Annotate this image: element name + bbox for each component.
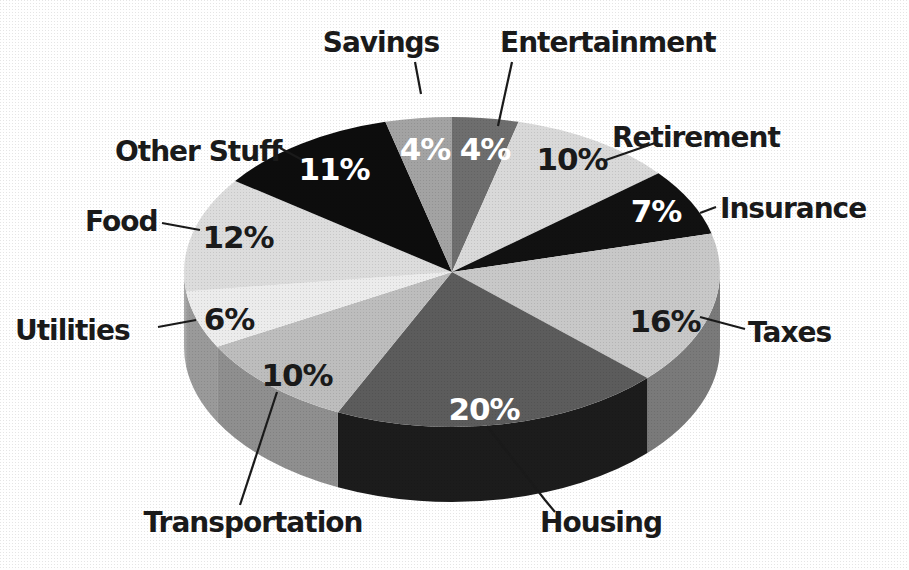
category-label: Food xyxy=(85,205,158,238)
category-label: Other Stuff xyxy=(115,135,283,168)
leader-line xyxy=(162,223,200,230)
category-label: Housing xyxy=(540,506,662,539)
leader-line xyxy=(700,207,716,213)
leader-line xyxy=(415,62,421,94)
percent-label: 10% xyxy=(536,141,608,177)
category-label: Entertainment xyxy=(500,26,716,59)
percent-label: 6% xyxy=(204,301,256,337)
category-label: Taxes xyxy=(748,316,831,349)
category-label: Utilities xyxy=(15,314,130,347)
category-label: Transportation xyxy=(144,506,363,539)
percent-label: 20% xyxy=(448,391,520,427)
percent-label: 11% xyxy=(298,151,370,187)
percent-label: 16% xyxy=(629,303,701,339)
percent-label: 4% xyxy=(400,131,452,167)
category-label: Savings xyxy=(323,26,440,59)
percent-label: 7% xyxy=(631,193,683,229)
category-label: Retirement xyxy=(612,121,780,154)
pie-chart: 4%10%7%16%20%10%6%12%11%4% Entertainment… xyxy=(0,0,909,570)
category-label: Insurance xyxy=(720,192,866,225)
percent-label: 12% xyxy=(202,219,274,255)
leader-line xyxy=(498,62,512,126)
percent-label: 10% xyxy=(261,357,333,393)
percent-label: 4% xyxy=(460,131,512,167)
